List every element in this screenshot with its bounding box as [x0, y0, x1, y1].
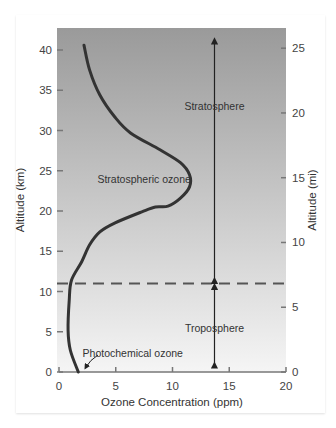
- left-tick-label: 30: [39, 125, 52, 137]
- left-tick-label: 40: [39, 44, 52, 56]
- right-tick-label: 20: [292, 107, 305, 119]
- right-tick-label: 25: [292, 42, 305, 54]
- annotation-stratospheric-ozone: Stratospheric ozone: [97, 173, 191, 185]
- right-tick-label: 5: [292, 301, 298, 313]
- left-tick-label: 35: [39, 84, 52, 96]
- right-tick-label: 10: [292, 236, 305, 248]
- x-tick-label: 15: [223, 380, 236, 392]
- ozone-altitude-chart: 0510152025303540 0510152025 05101520 Str…: [0, 0, 336, 428]
- x-axis-title: Ozone Concentration (ppm): [101, 396, 243, 408]
- left-tick-label: 0: [46, 366, 52, 378]
- right-tick-label: 0: [292, 366, 298, 378]
- left-tick-label: 20: [39, 205, 52, 217]
- annotation-troposphere: Troposphere: [185, 322, 244, 334]
- x-tick-label: 20: [280, 380, 293, 392]
- left-axis-title: Altitude (km): [14, 168, 26, 233]
- right-axis-title: Altitude (mi): [306, 169, 318, 231]
- x-tick-label: 10: [166, 380, 179, 392]
- annotation-photochemical-ozone: Photochemical ozone: [83, 347, 184, 359]
- left-tick-label: 5: [46, 326, 52, 338]
- left-tick-label: 15: [39, 245, 52, 257]
- x-tick-label: 5: [113, 380, 119, 392]
- annotation-stratosphere: Stratosphere: [184, 100, 244, 112]
- x-tick-label: 0: [56, 380, 62, 392]
- left-tick-label: 25: [39, 165, 52, 177]
- right-tick-label: 15: [292, 172, 305, 184]
- left-tick-label: 10: [39, 286, 52, 298]
